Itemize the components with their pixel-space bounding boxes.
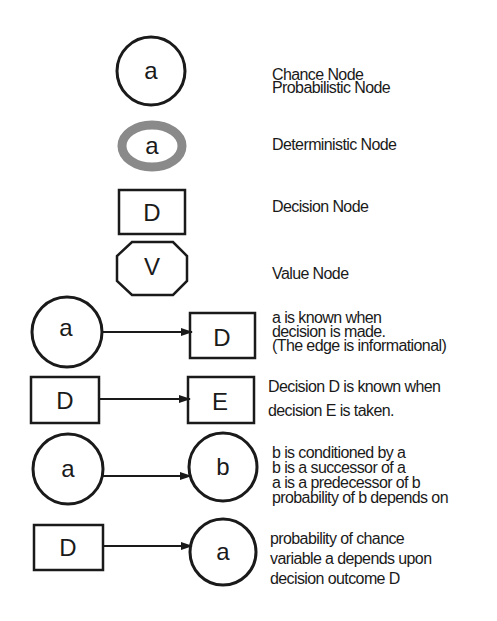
svg-text:E: E xyxy=(212,388,228,415)
label-line: probability of chance xyxy=(270,529,431,549)
svg-text:a: a xyxy=(59,314,73,341)
value-node-symbol: V xyxy=(117,242,187,295)
label-line: b is conditioned by a xyxy=(272,445,448,460)
relation-decision-to-decision: D E xyxy=(31,377,254,423)
chance-node-symbol: a xyxy=(117,37,185,105)
deterministic-node-symbol: a xyxy=(122,125,182,167)
label-line: Probabilistic Node xyxy=(272,81,390,94)
label-line: Decision Node xyxy=(272,200,368,214)
svg-text:a: a xyxy=(216,538,230,565)
chance-node-label: Chance Node Probabilistic Node xyxy=(272,68,390,94)
decision-node-label: Decision Node xyxy=(272,200,368,214)
label-line: variable a depends upon xyxy=(270,549,431,569)
svg-text:D: D xyxy=(143,199,160,226)
deterministic-node-label: Deterministic Node xyxy=(272,138,396,152)
decision-node-symbol: D xyxy=(119,190,185,234)
relation-3-description: b is conditioned by a b is a successor o… xyxy=(272,445,448,505)
relation-1-description: a is known when decision is made. (The e… xyxy=(272,311,446,353)
svg-text:V: V xyxy=(144,253,160,280)
label-line: Deterministic Node xyxy=(272,138,396,152)
svg-text:a: a xyxy=(61,455,75,482)
value-node-label: Value Node xyxy=(272,267,348,281)
label-line: decision outcome D xyxy=(270,569,431,589)
relation-4-description: probability of chance variable a depends… xyxy=(270,529,431,589)
svg-text:b: b xyxy=(216,453,229,480)
relation-decision-to-chance: D a xyxy=(34,519,256,585)
label-line: b is a successor of a xyxy=(272,460,448,475)
label-line: Decision D is known when xyxy=(268,375,440,399)
label-line: Value Node xyxy=(272,267,348,281)
label-line: decision E is taken. xyxy=(268,399,440,423)
svg-text:a: a xyxy=(145,132,159,159)
label-line: a is a predecessor of b xyxy=(272,475,448,490)
label-line: probability of b depends on xyxy=(272,490,448,505)
relation-chance-to-decision: a D xyxy=(32,297,255,367)
relation-chance-to-chance: a b xyxy=(33,433,257,504)
relation-2-description: Decision D is known when decision E is t… xyxy=(268,375,440,423)
label-line: (The edge is informational) xyxy=(272,339,446,353)
svg-text:D: D xyxy=(56,387,73,414)
svg-text:D: D xyxy=(213,324,230,351)
svg-text:D: D xyxy=(59,534,76,561)
svg-text:a: a xyxy=(144,57,158,84)
